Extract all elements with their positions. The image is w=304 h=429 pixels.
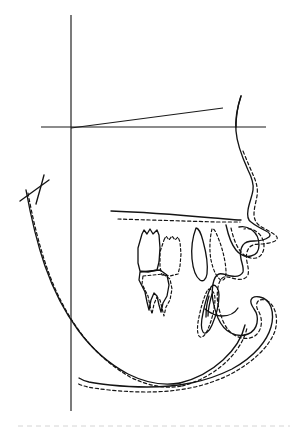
cephalometric-tracing-figure: Lateral cephalometric tracing superimpos… [0,0,304,429]
figure-background [0,0,304,429]
